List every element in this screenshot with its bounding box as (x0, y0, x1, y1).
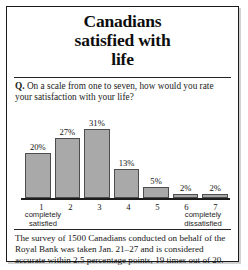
bar-column: 20% (25, 114, 51, 198)
bar-column: 2% (202, 114, 228, 198)
bar (25, 153, 51, 198)
x-axis-line (21, 198, 230, 200)
caption-low-line-2: satisfied (19, 220, 67, 229)
question-body: On a scale from one to seven, how would … (15, 81, 214, 102)
x-tick-5: 5 (145, 202, 170, 212)
infographic-card: Canadians satisfied with life Q. On a sc… (6, 6, 239, 262)
question-prefix: Q. (15, 81, 25, 91)
bar (84, 129, 110, 198)
scale-caption-low: completely satisfied (19, 211, 67, 228)
x-tick-4: 4 (116, 202, 141, 212)
plot-area: 20%27%31%13%5%2%2% (21, 114, 228, 200)
bar (143, 187, 169, 198)
bar-value-label: 5% (150, 177, 161, 186)
divider-bottom (14, 229, 231, 230)
bar-column: 2% (173, 114, 199, 198)
bar-value-label: 2% (180, 184, 191, 193)
question-text: Q. On a scale from one to seven, how wou… (15, 81, 230, 104)
x-tick-3: 3 (87, 202, 112, 212)
footnote: The survey of 1500 Canadians conducted o… (15, 233, 231, 267)
bar-column: 31% (84, 114, 110, 198)
page-title: Canadians satisfied with life (7, 12, 238, 69)
bar-value-label: 31% (89, 119, 105, 128)
bar-chart: 20%27%31%13%5%2%2% (21, 112, 228, 200)
title-line-1: Canadians (7, 12, 238, 31)
bar-value-label: 27% (59, 128, 75, 137)
bar (114, 169, 140, 198)
bar-value-label: 2% (210, 184, 221, 193)
bar-value-label: 13% (119, 159, 135, 168)
card-inner: Canadians satisfied with life Q. On a sc… (7, 7, 238, 261)
title-line-2: satisfied with (7, 31, 238, 50)
bar-series: 20%27%31%13%5%2%2% (25, 114, 228, 198)
caption-high-line-2: dissatisfied (170, 220, 236, 229)
bar-column: 5% (143, 114, 169, 198)
bar-column: 13% (114, 114, 140, 198)
bar-column: 27% (55, 114, 81, 198)
divider-top (14, 77, 231, 78)
scale-caption-high: completely dissatisfied (170, 211, 236, 228)
bar (55, 138, 81, 198)
bar-value-label: 20% (30, 143, 46, 152)
title-line-3: life (7, 50, 238, 69)
